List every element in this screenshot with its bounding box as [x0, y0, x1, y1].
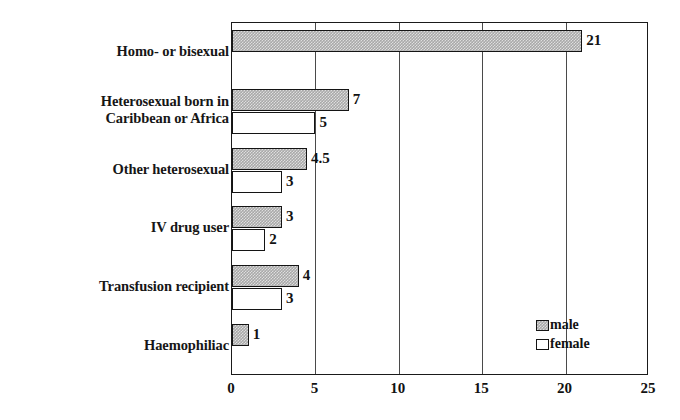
gridline-5 — [315, 23, 316, 374]
x-tick-10: 10 — [390, 380, 405, 397]
legend-item-male: male — [536, 316, 590, 335]
x-tick-0: 0 — [227, 380, 235, 397]
x-tick-15: 15 — [474, 380, 489, 397]
bar-female-2 — [232, 171, 282, 193]
gridline-10 — [399, 23, 400, 374]
male-swatch-icon — [536, 320, 549, 331]
bar-male-3 — [232, 206, 282, 228]
category-label-4: Transfusion recipient — [99, 278, 229, 295]
category-label-0: Homo- or bisexual — [117, 43, 229, 60]
x-tick-25: 25 — [641, 380, 656, 397]
bar-male-0 — [232, 30, 582, 52]
x-tick-5: 5 — [311, 380, 319, 397]
bar-female-4 — [232, 288, 282, 310]
female-swatch-icon — [536, 339, 549, 350]
bar-value-male-5: 1 — [253, 326, 261, 343]
bar-value-female-2: 3 — [286, 172, 294, 189]
bar-male-4 — [232, 265, 299, 287]
bar-value-male-3: 3 — [286, 208, 294, 225]
bar-value-female-4: 3 — [286, 290, 294, 307]
bar-value-female-3: 2 — [269, 231, 277, 248]
x-tick-20: 20 — [557, 380, 572, 397]
bar-value-male-0: 21 — [586, 31, 601, 48]
bar-value-female-1: 5 — [319, 113, 327, 130]
bar-chart: Homo- or bisexualHeterosexual born in Ca… — [0, 0, 680, 420]
category-label-2: Other heterosexual — [113, 161, 229, 178]
bar-female-1 — [232, 112, 315, 134]
bar-male-1 — [232, 89, 349, 111]
gridline-15 — [482, 23, 483, 374]
bar-value-male-2: 4.5 — [311, 149, 330, 166]
legend-item-female: female — [536, 335, 590, 354]
bar-value-male-1: 7 — [353, 90, 361, 107]
legend-label-male: male — [550, 316, 579, 335]
bar-male-2 — [232, 148, 307, 170]
chart-legend: malefemale — [536, 316, 590, 354]
category-label-3: IV drug user — [151, 219, 229, 236]
bar-female-3 — [232, 229, 265, 251]
bar-value-male-4: 4 — [303, 267, 311, 284]
legend-label-female: female — [550, 335, 590, 354]
category-label-5: Haemophiliac — [144, 337, 229, 354]
category-label-1: Heterosexual born in Caribbean or Africa — [101, 93, 229, 127]
bar-male-5 — [232, 324, 249, 346]
